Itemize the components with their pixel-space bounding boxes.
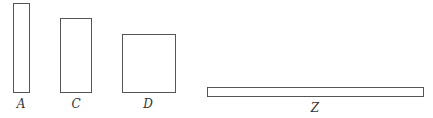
label-z: Z — [311, 102, 319, 114]
rectangle-z — [207, 87, 424, 97]
label-a: A — [17, 98, 26, 110]
rectangle-d — [122, 34, 176, 93]
label-d: D — [143, 98, 153, 110]
label-c: C — [71, 98, 80, 110]
rectangle-a — [13, 3, 30, 93]
rectangle-c — [60, 18, 92, 93]
